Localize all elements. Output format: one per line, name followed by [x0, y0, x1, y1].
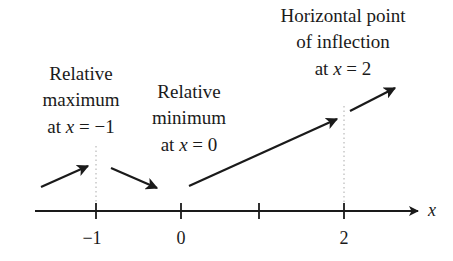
increasing-arrow-right-of-2	[350, 88, 395, 111]
annotation-point-of-inflection: Horizontal point of inflection at x = 2	[280, 5, 406, 79]
annotation-relative-maximum: Relative maximum at x = −1	[42, 63, 119, 137]
increasing-arrow-left-of-minus-1	[41, 166, 88, 187]
annotation-max-line-2: maximum	[42, 89, 119, 110]
annotation-relative-minimum: Relative minimum at x = 0	[152, 81, 226, 155]
annotation-max-line-3: at x = −1	[47, 116, 114, 137]
annotation-min-line-3: at x = 0	[161, 134, 218, 155]
first-derivative-sign-diagram: Relative maximum at x = −1 Relative mini…	[0, 0, 453, 261]
annotation-inflection-line-3: at x = 2	[315, 58, 372, 79]
tick-label-minus-1: −1	[82, 228, 101, 248]
annotation-inflection-line-1: Horizontal point	[280, 5, 406, 26]
tick-label-0: 0	[177, 228, 186, 248]
tick-label-2: 2	[340, 228, 349, 248]
annotation-max-line-1: Relative	[49, 63, 112, 84]
axis-variable-label: x	[427, 200, 436, 220]
decreasing-arrow-between-minus-1-and-0	[111, 168, 157, 188]
annotation-min-line-1: Relative	[157, 81, 220, 102]
annotation-inflection-line-2: of inflection	[296, 31, 390, 52]
annotation-min-line-2: minimum	[152, 107, 226, 128]
